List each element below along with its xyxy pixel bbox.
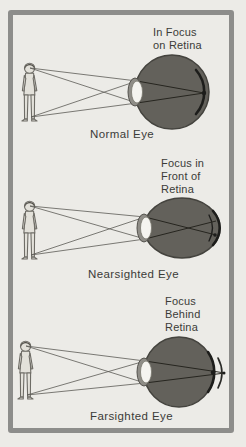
lens — [132, 81, 143, 103]
focal-point — [213, 233, 217, 237]
focus-label-line: Behind — [165, 308, 200, 321]
eye-diagram — [137, 198, 220, 258]
eye-focus-illustration: In Focus on Retina — [0, 0, 246, 447]
normal-eye-diagram — [13, 53, 229, 133]
light-rays — [30, 68, 137, 117]
eye-diagram — [137, 337, 226, 407]
lens — [141, 361, 152, 383]
focus-label-line: Focus — [165, 295, 200, 308]
focus-label-line: In Focus — [153, 26, 202, 39]
nearsighted-eye-diagram — [13, 195, 229, 273]
behind-retina-arc — [218, 358, 222, 388]
focus-label-line: Focus in — [161, 157, 204, 170]
lens — [141, 217, 152, 239]
person-figure — [22, 201, 37, 259]
farsighted-eye-diagram — [13, 333, 229, 415]
focus-label-nearsighted: Focus in Front of Retina — [161, 157, 204, 196]
focus-label-farsighted: Focus Behind Retina — [165, 295, 200, 334]
eye-diagram — [128, 55, 209, 129]
focus-label-normal: In Focus on Retina — [153, 26, 202, 52]
focus-label-line: on Retina — [153, 39, 202, 52]
focal-point — [223, 372, 226, 375]
person-figure — [22, 63, 37, 121]
diagram-frame: In Focus on Retina — [8, 10, 234, 433]
person-figure — [18, 341, 33, 399]
caption-farsighted-eye: Farsighted Eye — [90, 410, 173, 422]
eyeball — [144, 337, 214, 407]
caption-nearsighted-eye: Nearsighted Eye — [88, 268, 179, 280]
focal-point — [202, 91, 206, 95]
light-rays — [30, 206, 145, 255]
eyeball — [144, 198, 220, 258]
light-rays — [26, 346, 145, 395]
retina-blur-spot — [211, 370, 215, 374]
caption-normal-eye: Normal Eye — [90, 128, 154, 140]
focus-label-line: Front of — [161, 170, 204, 183]
